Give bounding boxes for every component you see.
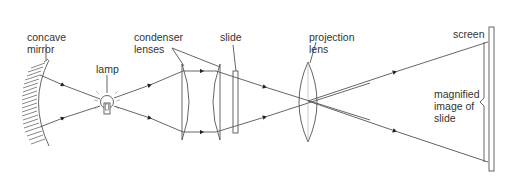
rays-lamp-to-condenser	[114, 71, 183, 132]
magnified-image-brace	[480, 42, 484, 162]
label-concave-mirror: concave mirror	[27, 31, 66, 55]
label-slide: slide	[220, 31, 242, 43]
label-screen: screen	[453, 28, 485, 40]
lamp-icon	[94, 75, 120, 114]
label-lamp: lamp	[96, 63, 119, 75]
concave-mirror	[22, 44, 49, 146]
label-magnified-image: magnified image of slide	[434, 88, 480, 124]
slide	[233, 71, 238, 133]
projection-lens	[299, 42, 317, 142]
rays-between-condensers	[183, 71, 216, 132]
label-condenser-lenses: condenser lenses	[134, 31, 183, 55]
screen	[489, 27, 494, 171]
projector-diagram: concave mirror lamp condenser lenses sli…	[0, 0, 517, 185]
condenser-lens-1	[182, 64, 189, 140]
rays-mirror-to-lamp	[40, 75, 100, 127]
label-projection-lens: projection lens	[309, 31, 355, 55]
condenser-lens-2	[213, 64, 220, 140]
